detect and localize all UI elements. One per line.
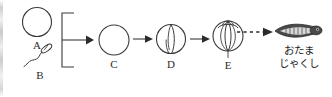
page-edge-artifact (0, 0, 3, 97)
stage-e-label: E (208, 60, 248, 71)
tadpole-label-line-1: おたま (268, 44, 330, 57)
arrow-c-to-d (133, 33, 153, 45)
stage-a-egg-cell (20, 5, 54, 39)
stage-c-label: C (97, 59, 131, 70)
stage-d-label: D (154, 59, 188, 70)
dashed-arrow-to-tadpole (237, 26, 273, 38)
tadpole-icon (272, 22, 324, 40)
stage-b-label: B (28, 70, 52, 81)
tadpole-label-line-2: じゃくし (268, 57, 330, 70)
tadpole-label: おたま じゃくし (268, 44, 330, 70)
bracket-connector (60, 12, 96, 68)
stage-b-sperm-cell (18, 40, 58, 70)
stage-d-two-cell (154, 22, 188, 58)
frog-development-figure: A B C (0, 0, 332, 97)
arrow-d-to-e (190, 33, 210, 45)
stage-c-fertilized-egg (97, 23, 131, 57)
